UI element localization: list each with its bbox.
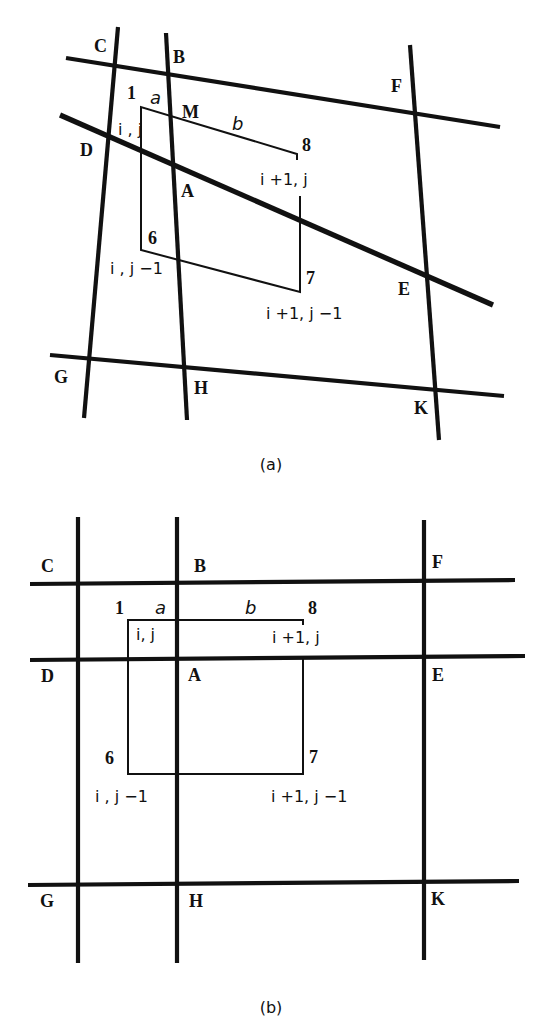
grid-point-label: H — [194, 378, 208, 398]
control-volume-top-edge — [141, 107, 297, 160]
panel-caption: (b) — [260, 998, 283, 1017]
grid-point-label: K — [414, 398, 428, 418]
control-volume-side-bottom-edges — [128, 659, 303, 774]
node-index-label: i , j — [118, 120, 142, 139]
node-number-label: 7 — [309, 747, 318, 767]
node-number-label: 6 — [105, 748, 114, 768]
panel-b-orthogonal-grid: CBFDAEGHK1867i, ji +1, ji , j −1i +1, j … — [28, 517, 525, 1017]
node-number-label: 8 — [302, 135, 311, 155]
grid-point-label: B — [194, 556, 206, 576]
grid-point-label: G — [40, 891, 54, 911]
grid-point-label: F — [391, 76, 402, 96]
node-index-label: i +1, j −1 — [266, 304, 342, 323]
grid-line-FEK-vertical — [410, 45, 439, 440]
panel-a-distorted-grid: CBFMDAEGHK1867i , ji +1, ji , j −1i +1, … — [50, 27, 504, 474]
grid-line-DAE-horizontal — [30, 656, 525, 660]
segment-length-label: a — [150, 87, 161, 108]
grid-point-label: G — [54, 367, 68, 387]
grid-point-label: D — [41, 666, 54, 686]
grid-point-label: A — [181, 181, 194, 201]
node-index-label: i +1, j — [260, 170, 308, 189]
grid-line-BAH-vertical — [166, 33, 187, 420]
grid-transformation-figure: CBFMDAEGHK1867i , ji +1, ji , j −1i +1, … — [0, 0, 547, 1031]
grid-point-label: M — [182, 102, 199, 122]
grid-point-label: K — [431, 889, 445, 909]
grid-line-GHK-horizontal — [28, 881, 519, 885]
panel-caption: (a) — [260, 455, 282, 474]
node-index-label: i , j −1 — [110, 259, 163, 278]
node-number-label: 7 — [306, 268, 315, 288]
segment-length-label: a — [155, 597, 166, 618]
grid-point-label: H — [189, 891, 203, 911]
control-volume-side-bottom-edges — [141, 142, 300, 292]
grid-point-label: E — [432, 665, 444, 685]
grid-point-label: A — [188, 665, 201, 685]
node-number-label: 8 — [308, 598, 317, 618]
node-number-label: 1 — [127, 83, 136, 103]
grid-point-label: D — [80, 140, 93, 160]
grid-point-label: C — [41, 556, 54, 576]
grid-point-label: B — [173, 47, 185, 67]
grid-point-label: C — [94, 36, 107, 56]
node-index-label: i +1, j — [272, 628, 320, 647]
grid-point-label: F — [432, 552, 443, 572]
node-index-label: i +1, j −1 — [271, 787, 347, 806]
node-index-label: i, j — [136, 625, 155, 644]
node-number-label: 1 — [115, 598, 124, 618]
grid-line-CBF-horizontal — [30, 580, 515, 584]
grid-point-label: E — [398, 279, 410, 299]
segment-length-label: b — [245, 597, 256, 618]
node-index-label: i , j −1 — [95, 787, 148, 806]
segment-length-label: b — [232, 113, 243, 134]
node-number-label: 6 — [148, 228, 157, 248]
